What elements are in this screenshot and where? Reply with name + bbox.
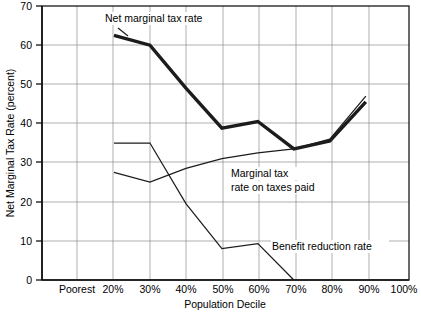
x-tick-label: 100%	[391, 283, 418, 295]
x-tick-label: 70%	[285, 283, 306, 295]
y-axis-title: Net Marginal Tax Rate (percent)	[4, 69, 16, 218]
y-tick-label: 70	[20, 0, 32, 12]
x-tick-label: Poorest	[59, 283, 95, 295]
x-tick-label: 60%	[248, 283, 269, 295]
y-tick-label: 0	[26, 274, 32, 286]
x-tick-label: 40%	[175, 283, 196, 295]
y-tick-labels: 70 60 50 40 30 20 10 0	[20, 0, 32, 286]
x-axis-title: Population Decile	[184, 298, 266, 310]
y-tick-label: 40	[20, 117, 32, 129]
x-tick-label: 30%	[139, 283, 160, 295]
chart-figure: 70 60 50 40 30 20 10 0 Poorest 20% 30% 4…	[0, 0, 421, 314]
x-tick-label: 80%	[321, 283, 342, 295]
tax-rate-line-chart: 70 60 50 40 30 20 10 0 Poorest 20% 30% 4…	[0, 0, 421, 314]
y-tick-label: 10	[20, 235, 32, 247]
x-tick-label: 50%	[212, 283, 233, 295]
x-tick-label: 90%	[358, 283, 379, 295]
annotation-benefit-reduction-rate: Benefit reduction rate	[272, 240, 372, 252]
y-tick-label: 20	[20, 196, 32, 208]
annotation-marginal-tax-rate-line1: Marginal tax	[231, 167, 289, 179]
plot-background	[42, 6, 409, 280]
annotation-marginal-tax-rate-line2: rate on taxes paid	[231, 181, 315, 193]
annotation-net-marginal-tax-rate: Net marginal tax rate	[105, 12, 203, 24]
y-tick-label: 60	[20, 39, 32, 51]
y-axis	[36, 6, 42, 280]
y-tick-label: 50	[20, 78, 32, 90]
x-tick-labels: Poorest 20% 30% 40% 50% 60% 70% 80% 90% …	[59, 283, 418, 295]
y-tick-label: 30	[20, 156, 32, 168]
x-tick-label: 20%	[102, 283, 123, 295]
